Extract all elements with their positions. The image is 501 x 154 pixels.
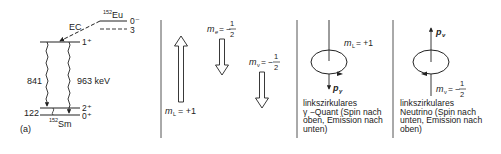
m-e-subscript: e [215, 29, 218, 35]
neutrino-spin-denominator: 2 [460, 90, 464, 99]
ec-label: EC [69, 22, 82, 32]
m-L-value: = +1 [178, 106, 196, 116]
neutrino-momentum-symbol: p [435, 27, 442, 37]
eu-dashed-spin: 3 [130, 25, 135, 35]
spin-arrows: m L = +1 m e = − 1 2 m ν = − 1 2 [165, 19, 280, 117]
m-e-denominator: 2 [230, 30, 234, 39]
transition-122-wave [52, 108, 54, 115]
m-nu-down-arrow-icon [256, 72, 269, 108]
neutrino-caption-line-4: oben) [400, 125, 482, 134]
level-1plus-spin: 1⁺ [82, 37, 92, 47]
m-e-numerator: 1 [230, 19, 234, 28]
m-nu-value: = − [261, 57, 273, 67]
decay-scheme: 152 Eu 0⁻ 3 EC 1⁺ 841 963 keV 2⁺ 0⁺ 122 … [20, 9, 140, 134]
m-nu-subscript: ν [257, 62, 260, 68]
diagram-canvas: 152 Eu 0⁻ 3 EC 1⁺ 841 963 keV 2⁺ 0⁺ 122 … [0, 0, 501, 154]
neutrino-spin-value: = − [448, 84, 460, 94]
level-2plus-energy: 122 [24, 108, 39, 118]
eu-mass-number: 152 [103, 9, 112, 15]
m-nu-numerator: 1 [274, 52, 278, 61]
m-e-symbol: m [207, 24, 215, 34]
neutrino-momentum-subscript: ν [442, 32, 446, 38]
gamma-963-wave [68, 42, 70, 113]
neutrino-caption: linkszirkulares Neutrino (Spin nach unte… [400, 99, 482, 133]
m-L-subscript: L [173, 111, 176, 117]
level-0plus-spin: 0⁺ [82, 111, 92, 121]
neutrino-spin-symbol: m [436, 84, 444, 94]
gamma-momentum-subscript: γ [339, 88, 343, 94]
sm-symbol: Sm [58, 119, 72, 129]
neutrino-spin-subscript: ν [444, 89, 447, 95]
gamma-841-label: 841 [27, 76, 42, 86]
gamma-quantum-panel: m L = +1 p γ [311, 20, 373, 94]
gamma-spin-subscript: L [352, 43, 355, 49]
gamma-caption: linkszirkulares γ −Quant (Spin nach oben… [303, 99, 383, 133]
sm-mass-number: 152 [49, 117, 58, 123]
gamma-spin-value: = +1 [356, 38, 373, 48]
neutrino-spin-numerator: 1 [460, 79, 464, 88]
m-nu-denominator: 2 [274, 63, 278, 72]
eu-symbol: Eu [112, 10, 123, 20]
m-e-down-arrow-icon [216, 39, 229, 75]
m-L-up-arrow-icon [175, 36, 188, 102]
gamma-caption-line-4: unten) [303, 125, 383, 134]
panel-a-label: (a) [20, 124, 31, 134]
m-nu-symbol: m [249, 57, 257, 67]
gamma-841-wave [46, 42, 48, 106]
gamma-963-label: 963 keV [77, 76, 110, 86]
gamma-spin-symbol: m [344, 38, 352, 48]
neutrino-panel: p ν m ν = − 1 2 [413, 27, 466, 99]
gamma-rotation-arrow-icon [337, 72, 343, 77]
m-L-symbol: m [165, 106, 173, 116]
gamma-momentum-symbol: p [332, 83, 339, 93]
